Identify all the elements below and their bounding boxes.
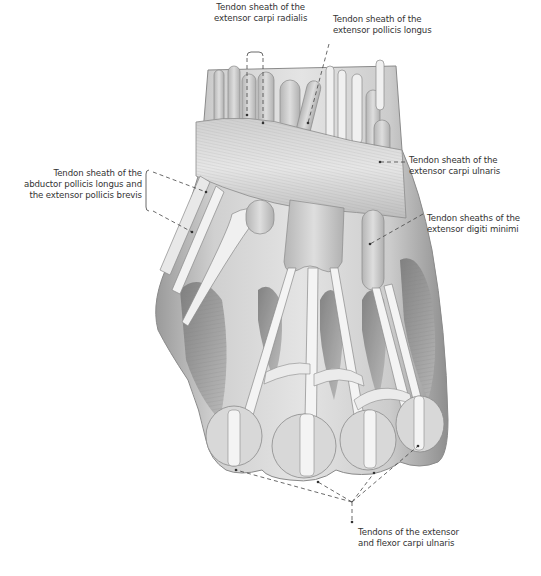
leader-endpoint [373,472,376,475]
leader-endpoint [205,191,208,194]
label-extensor-pollicis-longus: Tendon sheath of the extensor pollicis l… [333,14,432,36]
bracket [247,52,263,56]
label-line: abductor pollicis longus and [2,179,142,190]
label-line: Tendon sheath of the [214,2,307,13]
label-line: extensor pollicis longus [333,25,432,36]
leader-endpoint [379,161,382,164]
label-line: and flexor carpi ulnaris [358,538,459,549]
leader-endpoint [317,481,320,484]
leader-line [352,473,374,502]
leader-endpoint [307,122,310,125]
label-line: Tendon sheath of the [333,14,432,25]
label-line: Tendons of the extensor [358,527,459,538]
label-line: Tendon sheath of the [2,168,142,179]
label-extensor-flexor-carpi-ulnaris: Tendons of the extensor and flexor carpi… [358,527,459,549]
label-line: Tendon sheaths of the [427,213,520,224]
leader-endpoint [235,469,238,472]
label-extensor-digiti-minimi: Tendon sheaths of the extensor digiti mi… [427,213,520,235]
leader-endpoint [262,122,265,125]
label-extensor-carpi-radialis: Tendon sheath of the extensor carpi radi… [214,2,307,24]
label-extensor-carpi-ulnaris: Tendon sheath of the extensor carpi ulna… [409,155,500,177]
leader-endpoint [369,243,372,246]
leader-endpoint [417,445,420,448]
label-line: Tendon sheath of the [409,155,500,166]
label-line: extensor carpi radialis [214,13,307,24]
label-line: the extensor pollicis brevis [2,190,142,201]
label-line: extensor digiti minimi [427,224,520,235]
leader-endpoint [351,521,354,524]
bracket [146,170,149,211]
leader-endpoint [191,231,194,234]
label-abductor-pollicis-longus: Tendon sheath of the abductor pollicis l… [2,168,142,201]
hand-anatomy-illustration [0,0,541,576]
leader-line [318,482,352,502]
leader-endpoint [246,114,249,117]
label-line: extensor carpi ulnaris [409,166,500,177]
